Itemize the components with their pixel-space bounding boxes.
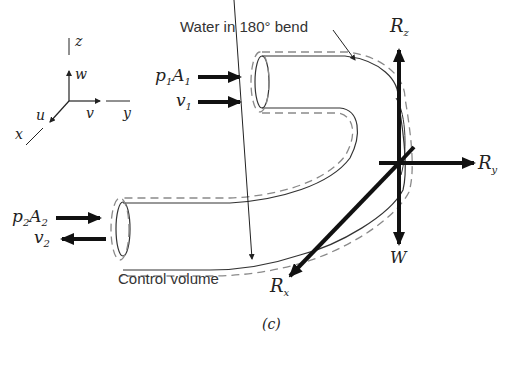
cv-outer — [121, 52, 412, 276]
Rz-label: Rz — [389, 15, 410, 38]
p2A2-label: p2A2 — [12, 206, 48, 228]
v1-label: v1 — [176, 90, 192, 112]
p1A1-label: p1A1 — [155, 65, 191, 87]
pipe-outer-wall — [123, 56, 405, 270]
cv-inner — [121, 113, 353, 198]
v-label: v — [86, 105, 94, 121]
Rx-arrow — [290, 163, 399, 276]
coordinate-axes: z w v y u x — [15, 33, 132, 145]
Ry-label: Ry — [477, 152, 498, 175]
Rx-label: Rx — [269, 275, 290, 298]
inlet-arrows: p1A1 v1 — [155, 65, 240, 112]
cv-outlet — [111, 198, 129, 260]
pipe-bend-diagram: z w v y u x p1A1 v1 p2A2 — [0, 0, 506, 371]
annotations: Water in 180° bend Control volume (c) — [118, 0, 355, 332]
pipe-inner-wall — [123, 108, 357, 203]
control-volume — [111, 52, 412, 276]
figure-caption: (c) — [262, 316, 281, 332]
pipe — [116, 56, 405, 270]
W-label: W — [390, 248, 408, 267]
x-axis-line — [26, 128, 43, 145]
outlet-arrows: p2A2 v2 — [12, 206, 106, 249]
outlet-opening — [116, 202, 130, 256]
x-label: x — [15, 126, 23, 142]
control-volume-leader-line — [234, 0, 252, 259]
u-label: u — [36, 107, 45, 123]
z-label: z — [74, 33, 83, 49]
control-volume-label: Control volume — [118, 270, 219, 287]
y-label: y — [122, 105, 132, 121]
u-arrow — [50, 101, 69, 122]
bend-label: Water in 180° bend — [180, 18, 308, 35]
reaction-forces: Rz Ry Rx W — [269, 15, 498, 298]
w-label: w — [75, 66, 87, 82]
v2-label: v2 — [34, 227, 50, 249]
